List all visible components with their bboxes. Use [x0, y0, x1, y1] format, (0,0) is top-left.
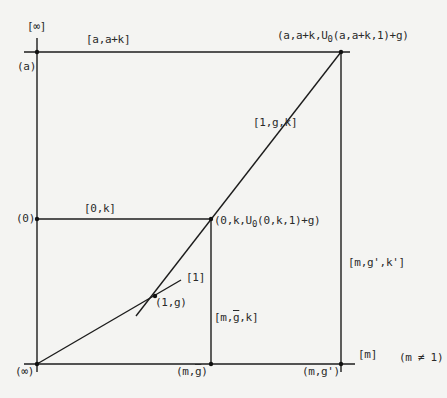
label-prefix: (a,a+k,U — [277, 29, 328, 42]
label-prefix: (0,k,U — [214, 214, 252, 227]
label-suffix: ) — [201, 365, 207, 378]
label-point-top-right: (a,a+k,U0(a,a+k,1)+g) — [277, 30, 409, 42]
point-a — [35, 50, 39, 54]
label-point-zero-k: (0,k,U0(0,k,1)+g) — [214, 215, 320, 227]
label-suffix: (0,k,1)+g) — [257, 214, 320, 227]
condition-note: (m ≠ 1) — [399, 352, 443, 364]
label-point-m-gbar: (m,g) — [176, 366, 208, 378]
label-line-a-a-plus-k: [a,a+k] — [86, 34, 130, 46]
label-suffix: ,k] — [239, 311, 258, 324]
label-line-1-g-k: [1,g,k] — [253, 117, 297, 129]
label-point-a: (a) — [17, 61, 36, 73]
label-point-zero: (0) — [16, 213, 35, 225]
label-line-infinity: [∞] — [27, 21, 46, 33]
label-line-m: [m] — [358, 349, 377, 361]
label-suffix: (a,a+k,1)+g) — [333, 29, 409, 42]
label-point-one-g: (1,g) — [155, 297, 187, 309]
label-line-one: [1] — [186, 272, 205, 284]
label-line-m-gprime-kprime: [m,g',k'] — [348, 257, 405, 269]
point-zero-k — [209, 217, 213, 221]
point-infinity — [35, 362, 39, 366]
label-prefix: (m, — [176, 365, 195, 378]
label-prefix: [m, — [214, 311, 233, 324]
line-1-g-k — [136, 52, 341, 316]
label-point-m-gprime: (m,g') — [302, 366, 340, 378]
diagram-lines — [0, 0, 447, 398]
line-one — [37, 280, 181, 364]
point-top-right — [339, 50, 343, 54]
point-zero — [35, 217, 39, 221]
diagram-canvas: [∞] [a,a+k] [1,g,k] [0,k] [1] [m,g,k] [m… — [0, 0, 447, 398]
point-m-gbar — [209, 362, 213, 366]
label-point-infinity: (∞) — [15, 366, 34, 378]
label-line-zero-k: [0,k] — [84, 203, 116, 215]
label-line-m-gbar-k: [m,g,k] — [214, 312, 258, 324]
